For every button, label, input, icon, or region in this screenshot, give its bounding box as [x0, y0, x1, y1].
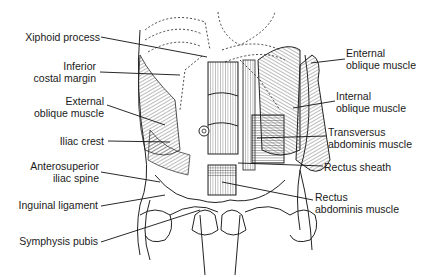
internal-oblique	[258, 47, 300, 155]
label-external-oblique-right: Enternal oblique muscle	[346, 47, 416, 71]
label-external-oblique-left: External oblique muscle	[8, 95, 104, 119]
right-external-oblique-flap	[296, 55, 330, 171]
umbilicus	[199, 126, 209, 136]
label-symphysis-pubis: Symphysis pubis	[4, 235, 98, 247]
label-rectus-abdominis: Rectus abdominis muscle	[315, 191, 399, 215]
label-inguinal-ligament: Inguinal ligament	[4, 199, 98, 211]
label-transversus-abdominis: Transversus abdominis muscle	[328, 126, 412, 150]
label-anterosuperior-iliac-spine: Anterosuperior iliac spine	[8, 160, 99, 184]
label-xiphoid-process: Xiphoid process	[8, 31, 100, 43]
label-rectus-sheath: Rectus sheath	[324, 161, 391, 173]
anatomy-diagram: Xiphoid process Inferior costal margin E…	[0, 0, 430, 277]
label-inferior-costal-margin: Inferior costal margin	[8, 60, 96, 84]
rectus-abdominis	[208, 62, 238, 154]
label-internal-oblique: Internal oblique muscle	[336, 90, 406, 114]
label-iliac-crest: Iliac crest	[8, 135, 104, 147]
